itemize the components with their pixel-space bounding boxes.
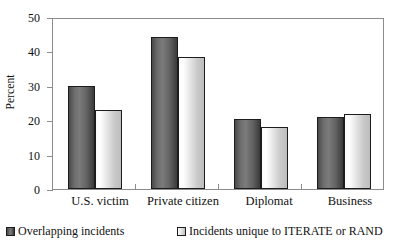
x-category-label-private-citizen: Private citizen [137,194,229,209]
legend-swatch-dark-icon [6,227,15,236]
bar-us-victim-overlapping [68,86,95,189]
y-tick-mark-0 [47,190,53,191]
x-category-label-business: Business [312,194,388,209]
legend-entry-unique-incidents: Incidents unique to ITERATE or RAND [177,224,383,239]
y-tick-label-10: 10 [14,150,40,162]
legend-entry-overlapping-incidents: Overlapping incidents [6,224,124,239]
bar-private-citizen-overlapping [151,37,178,189]
bar-business-unique [344,114,371,189]
y-tick-label-0: 0 [14,184,40,196]
legend-swatch-light-icon [177,227,186,236]
bar-business-overlapping [317,117,344,189]
group-separator [218,184,219,189]
y-tick-label-20: 20 [14,115,40,127]
x-category-label-us-victim: U.S. victim [59,194,141,209]
chart-legend: Overlapping incidents Incidents unique t… [0,224,397,240]
bar-private-citizen-unique [178,57,205,189]
bar-chart: Percent 50 40 30 20 10 0 [0,0,397,245]
plot-area [52,18,384,190]
group-separator [135,184,136,189]
bars-layer [53,19,383,189]
group-separator [301,184,302,189]
bar-diplomat-overlapping [234,119,261,189]
x-category-label-diplomat: Diplomat [228,194,310,209]
bar-diplomat-unique [261,127,288,189]
legend-label-overlapping-incidents: Overlapping incidents [18,224,124,239]
bar-us-victim-unique [95,110,122,189]
y-tick-label-50: 50 [14,12,40,24]
legend-label-unique-incidents: Incidents unique to ITERATE or RAND [189,224,383,239]
y-tick-label-40: 40 [14,46,40,58]
y-tick-label-30: 30 [14,81,40,93]
